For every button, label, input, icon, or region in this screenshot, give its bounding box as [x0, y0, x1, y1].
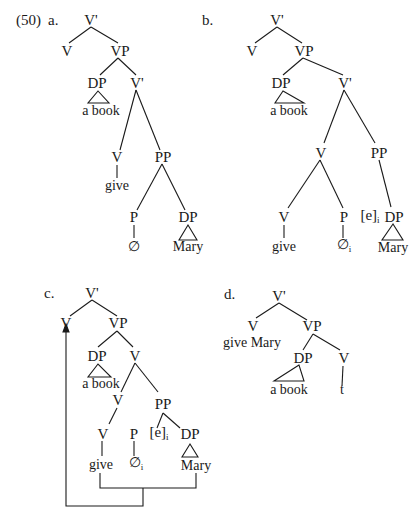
tree-b-v-head: V [247, 43, 258, 59]
tree-a-vbar: V' [130, 75, 144, 91]
tree-a-dp: DP [87, 75, 106, 91]
tree-b-v-complex: V [316, 145, 327, 161]
tree-b-dp: DP [271, 75, 290, 91]
tree-c-empty-category: [e]i [149, 424, 168, 445]
tree-c-label: c. [44, 285, 54, 301]
tree-d-label: d. [224, 286, 235, 302]
tree-b-p-word: ∅i [337, 237, 352, 257]
tree-b-dp2: DP [384, 209, 403, 225]
tree-b-branches [255, 27, 403, 240]
tree-c-root: V' [85, 285, 99, 301]
tree-d-vp: VP [302, 318, 321, 334]
tree-a-p: P [130, 209, 138, 225]
tree-c-vp: VP [108, 315, 127, 331]
tree-a-v-head: V [62, 43, 73, 59]
tree-d-root: V' [272, 288, 286, 304]
tree-a-vp: VP [110, 43, 129, 59]
tree-c-branches [63, 300, 198, 506]
tree-a-dp-text: a book [82, 103, 120, 119]
tree-c-v-word: give [89, 457, 113, 473]
tree-b-vp: VP [294, 43, 313, 59]
tree-c-pp: PP [155, 396, 172, 412]
tree-b-dp2-text: Mary [378, 240, 408, 256]
tree-d-v-word: give Mary [223, 335, 281, 351]
tree-branches [0, 0, 415, 521]
tree-b-p: P [340, 209, 348, 225]
tree-b-vbar: V' [338, 75, 352, 91]
tree-d-v: V [339, 350, 350, 366]
tree-b-dp-text: a book [270, 103, 308, 119]
tree-c-p-word: ∅i [129, 455, 144, 475]
tree-d-v-head: V [248, 318, 259, 334]
tree-c-dp-text: a book [82, 376, 120, 392]
tree-c-dp2: DP [180, 426, 199, 442]
tree-a-v-word: give [105, 178, 129, 194]
tree-b-empty-category: [e]i [360, 207, 379, 228]
tree-a-pp: PP [155, 149, 172, 165]
tree-c-v-low: V [113, 392, 124, 408]
tree-b-v-word: give [272, 239, 296, 255]
tree-d-dp: DP [293, 350, 312, 366]
tree-c-dp2-text: Mary [181, 458, 211, 474]
tree-a-label: a. [48, 12, 58, 28]
tree-a-v: V [112, 149, 123, 165]
tree-c-v-mid: V [130, 348, 141, 364]
tree-c-v-head: V [61, 315, 72, 331]
tree-c-v: V [98, 426, 109, 442]
tree-b-root: V' [270, 12, 284, 28]
tree-a-dp2-text: Mary [173, 239, 203, 255]
tree-b-v: V [279, 209, 290, 225]
tree-b-label: b. [202, 12, 213, 28]
example-number: (50) [16, 12, 41, 28]
tree-c-dp: DP [87, 348, 106, 364]
syntax-trees-figure: (50) a. V' V VP DP a book V' V give PP P… [0, 0, 415, 521]
tree-a-p-word: ∅ [128, 239, 140, 255]
tree-a-root: V' [84, 12, 98, 28]
tree-d-dp-text: a book [270, 382, 308, 398]
tree-b-pp: PP [371, 145, 388, 161]
tree-d-trace: t [340, 382, 344, 398]
tree-a-dp2: DP [178, 209, 197, 225]
tree-c-p: P [130, 426, 138, 442]
